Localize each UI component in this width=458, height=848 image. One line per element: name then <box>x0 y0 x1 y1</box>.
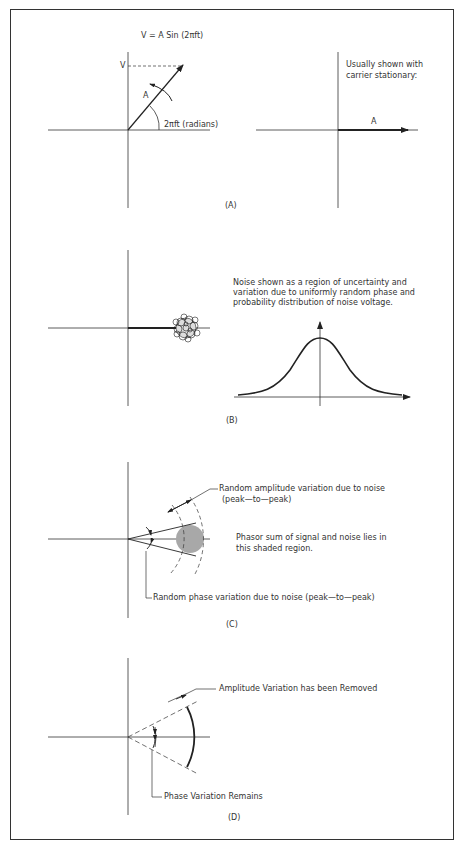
panel-a-angle-label: 2πft (radians) <box>164 120 218 130</box>
panel-b-note-line2: variation due to uniformly random phase … <box>233 288 415 298</box>
panel-a-right-amplitude-label: A <box>371 117 376 127</box>
panel-c-amplitude-note-line1: Random amplitude variation due to noise <box>219 484 385 494</box>
panel-a-amplitude-label: A <box>143 91 148 101</box>
panel-c-label: (C) <box>226 620 238 629</box>
panel-a-label: (A) <box>225 201 237 210</box>
panel-a-equation: V = A Sin (2πft) <box>141 31 203 41</box>
panel-c-amplitude-note-line2: (peak—to—peak) <box>222 495 291 505</box>
panel-d-label: (D) <box>228 813 240 822</box>
panel-a-note-line2: carrier stationary: <box>346 71 417 81</box>
panel-d-phase-note: Phase Variation Remains <box>164 792 263 802</box>
shaded-region <box>176 525 204 553</box>
panel-b-note-line1: Noise shown as a region of uncertainty a… <box>233 278 407 288</box>
panel-d-amplitude-note: Amplitude Variation has been Removed <box>219 684 377 694</box>
panel-a-v-label: V <box>120 61 125 71</box>
panel-a-left-phasor <box>48 52 210 208</box>
panel-c-phase-note: Random phase variation due to noise (pea… <box>153 593 375 603</box>
panel-c-shaded-note-line2: this shaded region. <box>236 544 313 554</box>
noise-cloud <box>173 314 200 342</box>
panel-b-label: (B) <box>226 416 238 425</box>
panel-a-note-line1: Usually shown with <box>346 60 423 70</box>
panel-b-note-line3: probability distribution of noise voltag… <box>233 298 393 308</box>
panel-c-shaded-note-line1: Phasor sum of signal and noise lies in <box>236 533 387 543</box>
gaussian-curve <box>234 322 410 406</box>
